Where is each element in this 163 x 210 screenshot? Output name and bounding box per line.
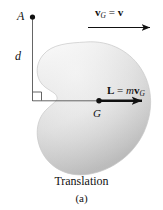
label-momentum-equation: L = mvG [107,85,145,98]
velocity-subscript: G [101,11,106,20]
label-velocity-equation: vG = v [95,7,123,20]
momentum-symbol: L [107,84,114,96]
momentum-equals: = [117,84,123,96]
figure-subcaption: (a) [0,193,163,204]
momentum-subscript: G [140,89,145,98]
label-center-g: G [93,108,101,119]
figure-translation: A d G vG = v L = mvG Translation (a) [0,0,163,210]
momentum-mass: m [126,84,134,96]
label-point-a: A [17,10,24,22]
right-angle-marker [33,92,42,101]
velocity-rhs: v [118,6,124,18]
point-a-dot [30,14,35,19]
figure-caption: Translation [0,175,163,187]
velocity-equals: = [109,6,115,18]
label-distance-d: d [15,50,21,62]
